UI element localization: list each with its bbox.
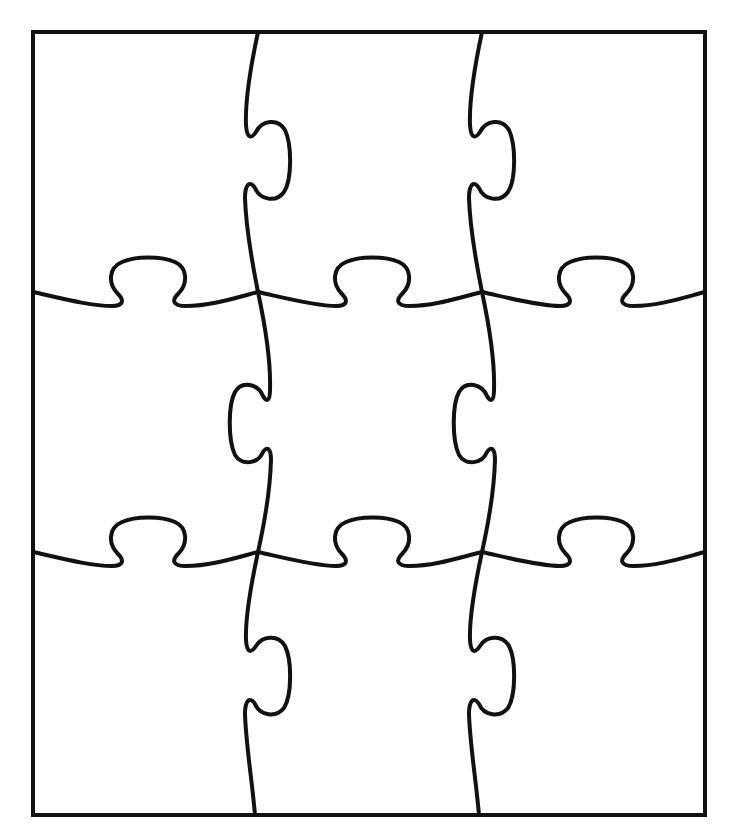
piece-r3c1 — [35, 554, 256, 813]
piece-r1c3 — [484, 34, 703, 290]
puzzle-diagram — [0, 0, 739, 837]
puzzle-pieces — [35, 34, 703, 813]
piece-r1c1 — [35, 34, 256, 290]
piece-r3c3 — [484, 554, 703, 813]
piece-r3c2 — [260, 554, 480, 813]
piece-r2c3 — [484, 294, 703, 550]
piece-r2c2 — [260, 294, 480, 550]
piece-r1c2 — [260, 34, 480, 290]
piece-r2c1 — [35, 294, 256, 550]
